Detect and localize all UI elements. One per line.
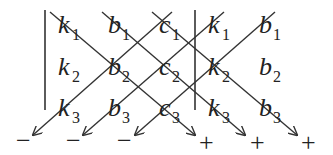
sign-row: − − − + + + (16, 126, 316, 155)
plus-sign-2: + (250, 128, 265, 155)
cell-k3: k (58, 93, 70, 122)
cell-b1: b (108, 10, 121, 39)
subscript: 3 (172, 109, 180, 126)
cell-b2: b (108, 52, 121, 81)
cell-k1-repeat: k (208, 10, 220, 39)
subscript: 3 (72, 109, 80, 126)
negative-diagonal-2 (83, 12, 224, 135)
cell-k2: k (58, 52, 70, 81)
cell-c3: c (159, 93, 171, 122)
subscript: 2 (172, 68, 180, 85)
matrix-row-2: k2 b2 c2 k2 b2 (58, 52, 281, 85)
cell-c1: c (159, 10, 171, 39)
subscript: 1 (172, 26, 180, 43)
minus-sign-2: − (66, 126, 81, 155)
subscript: 3 (273, 109, 281, 126)
subscript: 1 (122, 26, 130, 43)
subscript: 3 (122, 109, 130, 126)
plus-sign-1: + (199, 128, 214, 155)
cell-b3-repeat: b (259, 93, 272, 122)
subscript: 1 (273, 26, 281, 43)
subscript: 3 (222, 109, 230, 126)
cell-c2: c (159, 52, 171, 81)
subscript: 1 (222, 26, 230, 43)
negative-diagonal-1 (33, 12, 172, 135)
matrix-row-3: k3 b3 c3 k3 b3 (58, 93, 281, 126)
cell-k2-repeat: k (208, 52, 220, 81)
cell-b2-repeat: b (259, 52, 272, 81)
subscript: 1 (72, 26, 80, 43)
subscript: 2 (273, 68, 281, 85)
subscript: 2 (122, 68, 130, 85)
subscript: 2 (72, 68, 80, 85)
matrix-row-1: k1 b1 c1 k1 b1 (58, 10, 281, 43)
sarrus-diagram: k1 b1 c1 k1 b1 k2 b2 c2 k2 b2 k3 b3 c3 k… (0, 0, 333, 155)
plus-sign-3: + (301, 128, 316, 155)
cell-b3: b (108, 93, 121, 122)
cell-k3-repeat: k (208, 93, 220, 122)
subscript: 2 (222, 68, 230, 85)
negative-diagonal-3 (135, 12, 275, 135)
cell-k1: k (58, 10, 70, 39)
minus-sign-1: − (16, 126, 31, 155)
cell-b1-repeat: b (259, 10, 272, 39)
minus-sign-3: − (117, 126, 132, 155)
